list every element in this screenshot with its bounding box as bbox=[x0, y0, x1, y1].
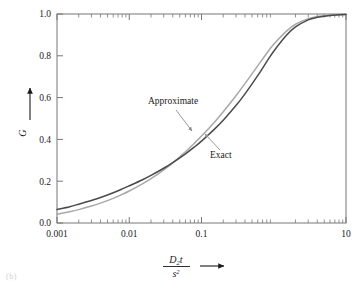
y-tick-label: 0.2 bbox=[39, 177, 51, 187]
y-tick-label: 1.0 bbox=[39, 9, 51, 19]
y-axis-tick-labels: 0.00.20.40.60.81.0 bbox=[39, 9, 51, 228]
series-line-exact bbox=[57, 14, 346, 209]
y-tick-label: 0.6 bbox=[39, 93, 51, 103]
figure-caption-fragment: (b) bbox=[6, 272, 17, 281]
plot-frame bbox=[57, 14, 346, 223]
x-tick-label: 0.1 bbox=[196, 229, 208, 239]
series-line-approximate bbox=[57, 14, 346, 214]
annotation-label-approximate: Approximate bbox=[148, 96, 198, 106]
y-tick-label: 0.4 bbox=[39, 135, 51, 145]
x-tick-label: 0.01 bbox=[121, 229, 138, 239]
x-tick-label: 10 bbox=[341, 229, 351, 239]
x-axis-minor-ticks bbox=[79, 14, 343, 223]
x-axis-title-denominator-sup: 2 bbox=[176, 268, 180, 275]
figure-container: 0.0010.010.110 0.00.20.40.60.81.0 Approx… bbox=[0, 0, 357, 288]
x-axis-title: D2t s2 bbox=[163, 254, 224, 279]
x-axis-title-numerator: D2t bbox=[168, 254, 182, 266]
annotation-arrow-exact bbox=[205, 134, 220, 150]
chart-canvas: 0.0010.010.110 0.00.20.40.60.81.0 Approx… bbox=[0, 0, 357, 288]
y-axis-title: G bbox=[17, 129, 28, 136]
y-tick-label: 0.0 bbox=[39, 218, 51, 228]
x-axis-tick-labels: 0.0010.010.110 bbox=[46, 229, 351, 239]
x-tick-label: 0.001 bbox=[46, 229, 68, 239]
annotation-arrow-approximate bbox=[176, 110, 192, 131]
x-axis-title-numerator-var2: t bbox=[180, 254, 183, 265]
annotation-label-exact: Exact bbox=[210, 150, 232, 160]
y-axis-major-ticks bbox=[57, 14, 63, 223]
x-axis-title-denominator: s2 bbox=[172, 268, 180, 279]
y-tick-label: 0.8 bbox=[39, 51, 51, 61]
